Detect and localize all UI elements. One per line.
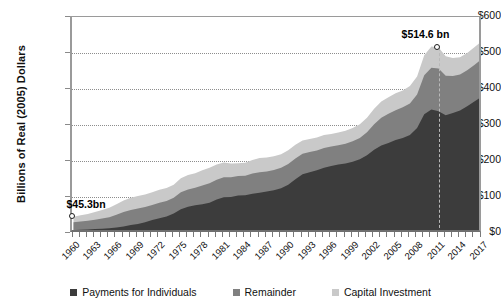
stacked-area-chart: Billions of Real (2005) Dollars $0$100$2… (0, 0, 501, 305)
x-tick-mark (100, 232, 101, 237)
x-tick-mark (351, 232, 352, 237)
x-tick-mark (286, 232, 287, 237)
x-tick-mark (458, 232, 459, 237)
x-tick-mark (465, 232, 466, 237)
x-tick-mark (258, 232, 259, 237)
x-tick-mark (272, 232, 273, 237)
x-tick-mark (394, 232, 395, 237)
x-tick-label: 1984 (225, 239, 253, 267)
legend-label: Payments for Individuals (82, 286, 196, 298)
x-tick-mark (150, 232, 151, 237)
x-tick-label: 1960 (54, 239, 82, 267)
x-tick-mark (365, 232, 366, 237)
x-tick-mark (129, 232, 130, 237)
x-tick-mark (429, 232, 430, 237)
x-tick-mark (415, 232, 416, 237)
x-tick-label: 1993 (290, 239, 318, 267)
x-tick-mark (79, 232, 80, 237)
legend-swatch-icon (233, 289, 240, 296)
x-tick-mark (401, 232, 402, 237)
x-tick-mark (86, 232, 87, 237)
start-annotation-label: $45.3bn (67, 198, 106, 210)
x-tick-mark (72, 232, 73, 237)
x-tick-label: 2017 (462, 239, 490, 267)
x-tick-mark (250, 232, 251, 237)
x-tick-label: 2008 (397, 239, 425, 267)
x-tick-mark (229, 232, 230, 237)
x-tick-mark (322, 232, 323, 237)
area-series-group (72, 17, 481, 232)
x-tick-mark (193, 232, 194, 237)
x-tick-mark (315, 232, 316, 237)
legend-label: Capital Investment (344, 286, 431, 298)
x-tick-label: 1978 (183, 239, 211, 267)
x-tick-mark (358, 232, 359, 237)
x-tick-label: 1963 (75, 239, 103, 267)
x-tick-mark (336, 232, 337, 237)
x-tick-mark (93, 232, 94, 237)
peak-guide-line (439, 48, 440, 232)
x-tick-mark (379, 232, 380, 237)
y-axis-title: Billions of Real (2005) Dollars (15, 12, 27, 236)
legend-item[interactable]: Remainder (233, 286, 296, 298)
plot-area (70, 16, 481, 232)
x-tick-mark (408, 232, 409, 237)
x-tick-label: 1981 (204, 239, 232, 267)
x-tick-label: 1999 (333, 239, 361, 267)
x-tick-mark (480, 232, 481, 237)
x-tick-mark (222, 232, 223, 237)
x-tick-mark (308, 232, 309, 237)
start-annotation-marker (69, 213, 75, 219)
x-tick-mark (165, 232, 166, 237)
x-tick-mark (372, 232, 373, 237)
x-tick-mark (265, 232, 266, 237)
x-tick-mark (114, 232, 115, 237)
x-tick-label: 1987 (247, 239, 275, 267)
x-tick-mark (107, 232, 108, 237)
x-tick-mark (157, 232, 158, 237)
legend-swatch-icon (70, 289, 77, 296)
x-tick-mark (279, 232, 280, 237)
x-tick-mark (200, 232, 201, 237)
y-tick-mark (65, 232, 70, 233)
x-tick-mark (136, 232, 137, 237)
legend-label: Remainder (245, 286, 296, 298)
x-tick-mark (344, 232, 345, 237)
x-tick-mark (293, 232, 294, 237)
x-tick-label: 1972 (140, 239, 168, 267)
x-tick-mark (215, 232, 216, 237)
x-tick-mark (179, 232, 180, 237)
x-tick-label: 2002 (354, 239, 382, 267)
peak-annotation-label: $514.6 bn (402, 28, 450, 40)
x-tick-label: 2011 (419, 239, 447, 267)
x-tick-label: 2005 (376, 239, 404, 267)
x-tick-label: 1969 (118, 239, 146, 267)
peak-annotation-marker (434, 44, 440, 50)
x-tick-mark (472, 232, 473, 237)
x-tick-label: 2014 (440, 239, 468, 267)
x-tick-mark (186, 232, 187, 237)
x-tick-mark (422, 232, 423, 237)
legend-item[interactable]: Payments for Individuals (70, 286, 196, 298)
x-tick-mark (301, 232, 302, 237)
x-tick-mark (329, 232, 330, 237)
x-tick-mark (143, 232, 144, 237)
x-tick-mark (236, 232, 237, 237)
legend-item[interactable]: Capital Investment (332, 286, 431, 298)
x-tick-mark (451, 232, 452, 237)
x-tick-mark (122, 232, 123, 237)
x-tick-mark (243, 232, 244, 237)
x-tick-label: 1966 (97, 239, 125, 267)
x-tick-mark (437, 232, 438, 237)
x-tick-mark (172, 232, 173, 237)
x-tick-mark (386, 232, 387, 237)
legend-swatch-icon (332, 289, 339, 296)
chart-legend: Payments for IndividualsRemainderCapital… (0, 283, 501, 301)
x-tick-label: 1990 (268, 239, 296, 267)
x-tick-label: 1996 (311, 239, 339, 267)
x-tick-mark (444, 232, 445, 237)
x-tick-mark (208, 232, 209, 237)
x-tick-label: 1975 (161, 239, 189, 267)
